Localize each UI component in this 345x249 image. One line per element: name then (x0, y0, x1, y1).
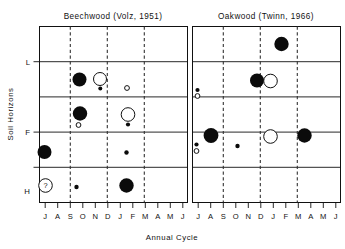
x-label-right-4: N (245, 212, 251, 221)
marker-filled-large (204, 128, 219, 143)
marker-open-large (264, 74, 278, 88)
y-axis-caption: Soil Horizons (6, 87, 15, 140)
season-divider-lines-right (223, 27, 297, 203)
x-label-left-5: D (105, 212, 111, 221)
x-label-left-3: O (80, 212, 86, 221)
marker-filled-tiny (235, 144, 239, 148)
marker-filled-tiny (98, 87, 102, 91)
marker-filled-large (38, 145, 52, 159)
marker-filled-large (119, 178, 133, 192)
x-label-left-0: J (43, 212, 47, 221)
x-label-left-7: F (130, 212, 135, 221)
panel-title-oakwood: Oakwood (Twinn, 1966) (218, 12, 314, 21)
x-label-right-6: J (271, 212, 275, 221)
marker-filled-tiny (124, 150, 128, 154)
x-label-right-9: A (308, 212, 314, 221)
x-label-right-5: D (258, 212, 264, 221)
marker-open-tiny (76, 123, 81, 128)
marker-filled-large (297, 128, 311, 142)
horizon-band-lines-left (40, 62, 188, 168)
x-label-right-3: O (233, 212, 239, 221)
x-label-left-9: A (155, 212, 161, 221)
panel-oakwood: Oakwood (Twinn, 1966) (193, 12, 341, 221)
figure-root: Beechwood (Volz, 1951) (0, 0, 345, 249)
marker-filled-large (73, 73, 87, 87)
x-label-right-1: A (208, 212, 214, 221)
marker-open-tiny (194, 149, 199, 154)
x-label-left-10: M (167, 212, 174, 221)
marker-open-large (121, 108, 135, 122)
x-tick-marks-left (45, 203, 183, 209)
x-label-left-1: A (55, 212, 61, 221)
question-mark-label: ? (43, 181, 47, 190)
marker-filled-large (274, 37, 288, 51)
x-tick-marks-right (198, 203, 336, 209)
panel-beechwood: Beechwood (Volz, 1951) (24, 12, 187, 221)
marker-open-large (94, 73, 107, 86)
marker-filled-large (73, 106, 87, 120)
x-label-left-11: J (181, 212, 185, 221)
data-markers-left: ? (38, 73, 135, 193)
x-label-left-4: N (92, 212, 98, 221)
chart-canvas: Beechwood (Volz, 1951) (0, 0, 345, 249)
panel-title-beechwood: Beechwood (Volz, 1951) (64, 12, 163, 21)
x-label-right-0: J (196, 212, 200, 221)
x-tick-labels-left: J A S O N D J F M A M J (43, 212, 185, 221)
x-tick-labels-right: J A S O N D J F M A M J (196, 212, 338, 221)
x-label-right-11: J (334, 212, 338, 221)
marker-filled-tiny (126, 122, 130, 126)
x-label-left-6: J (118, 212, 122, 221)
plot-frame-right (193, 27, 341, 203)
x-label-left-8: M (142, 212, 149, 221)
plot-frame-left (40, 27, 188, 203)
marker-filled-tiny (74, 185, 78, 189)
x-label-right-8: M (295, 212, 302, 221)
x-axis-caption: Annual Cycle (146, 233, 199, 242)
data-markers-right (194, 37, 312, 154)
x-label-right-2: S (221, 212, 226, 221)
y-tick-labels-left: L F H (24, 58, 39, 196)
x-label-right-7: F (283, 212, 288, 221)
horizon-label-F: F (25, 128, 30, 137)
x-label-right-10: M (320, 212, 327, 221)
marker-filled-tiny (194, 142, 198, 146)
marker-open-tiny (125, 86, 130, 91)
horizon-label-H: H (24, 187, 30, 196)
marker-open-large (264, 130, 278, 144)
horizon-label-L: L (26, 58, 31, 67)
marker-filled-tiny (195, 88, 199, 92)
marker-filled-large (250, 74, 264, 88)
marker-open-tiny (195, 94, 200, 99)
x-label-left-2: S (68, 212, 73, 221)
